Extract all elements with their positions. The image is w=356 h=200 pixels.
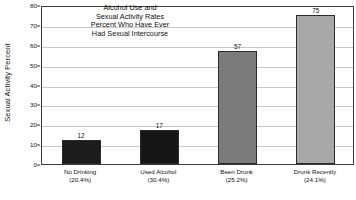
x-category-name: No Drinking (64, 168, 96, 176)
bar-value-label-been-drunk: 57 (234, 44, 241, 50)
x-category-sublabel: (25.2%) (220, 176, 253, 184)
y-tick-mark-0 (37, 165, 40, 166)
x-category-sublabel: (24.1%) (294, 176, 336, 184)
bar-value-label-drunk-recently: 75 (312, 8, 319, 14)
y-tick-mark-10 (37, 145, 40, 146)
y-tick-mark-70 (37, 25, 40, 26)
x-category-no-drinking: No Drinking(20.4%) (64, 168, 96, 184)
x-category-used-alcohol: Used Alcohol(30.4%) (140, 168, 176, 184)
y-axis-tick-labels: 01020304050607080 (14, 0, 40, 166)
x-category-sublabel: (20.4%) (64, 176, 96, 184)
bar-value-label-no-drinking: 12 (78, 133, 85, 139)
x-category-sublabel: (30.4%) (140, 176, 176, 184)
chart-figure: Sexual Activity Percent 0102030405060708… (0, 0, 356, 200)
y-tick-mark-60 (37, 45, 40, 46)
bar-value-label-used-alcohol: 17 (156, 123, 163, 129)
y-tick-label-40: 40 (15, 82, 37, 88)
y-tick-label-20: 20 (15, 122, 37, 128)
y-tick-mark-40 (37, 85, 40, 86)
x-category-been-drunk: Been Drunk(25.2%) (220, 168, 253, 184)
y-tick-mark-80 (37, 6, 40, 7)
y-tick-mark-20 (37, 125, 40, 126)
y-tick-label-60: 60 (15, 43, 37, 49)
y-tick-label-70: 70 (15, 23, 37, 29)
bar-used-alcohol (140, 130, 179, 164)
chart-title-line-4: Had Sexual Intercourse (55, 30, 205, 39)
x-category-name: Used Alcohol (140, 168, 176, 176)
y-tick-mark-30 (37, 105, 40, 106)
y-tick-label-80: 80 (15, 3, 37, 9)
x-axis-category-labels: No Drinking(20.4%)Used Alcohol(30.4%)Bee… (41, 168, 354, 198)
x-category-name: Been Drunk (220, 168, 253, 176)
bar-been-drunk (218, 51, 257, 164)
y-axis-title: Sexual Activity Percent (0, 0, 14, 165)
y-tick-mark-50 (37, 65, 40, 66)
x-category-drunk-recently: Drunk Recently(24.1%) (294, 168, 336, 184)
chart-title: Alcohol Use andSexual Activity RatesPerc… (55, 4, 205, 38)
y-tick-label-10: 10 (15, 142, 37, 148)
bar-no-drinking (62, 140, 101, 164)
y-axis-title-text: Sexual Activity Percent (3, 43, 12, 122)
y-tick-label-50: 50 (15, 63, 37, 69)
y-tick-label-0: 0 (15, 162, 37, 168)
bar-drunk-recently (296, 15, 335, 164)
x-category-name: Drunk Recently (294, 168, 336, 176)
y-tick-label-30: 30 (15, 102, 37, 108)
